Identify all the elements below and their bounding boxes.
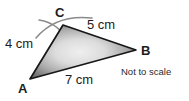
vertex-label-c: C xyxy=(55,6,64,19)
vertex-label-a: A xyxy=(18,82,27,95)
triangle-figure: A B C 4 cm 5 cm 7 cm Not to scale xyxy=(0,0,189,101)
not-to-scale-note: Not to scale xyxy=(121,67,171,77)
side-length-label-ab: 7 cm xyxy=(65,73,93,86)
vertex-label-b: B xyxy=(141,44,150,57)
side-length-label-ac: 4 cm xyxy=(5,37,33,50)
side-length-label-cb: 5 cm xyxy=(87,18,115,31)
